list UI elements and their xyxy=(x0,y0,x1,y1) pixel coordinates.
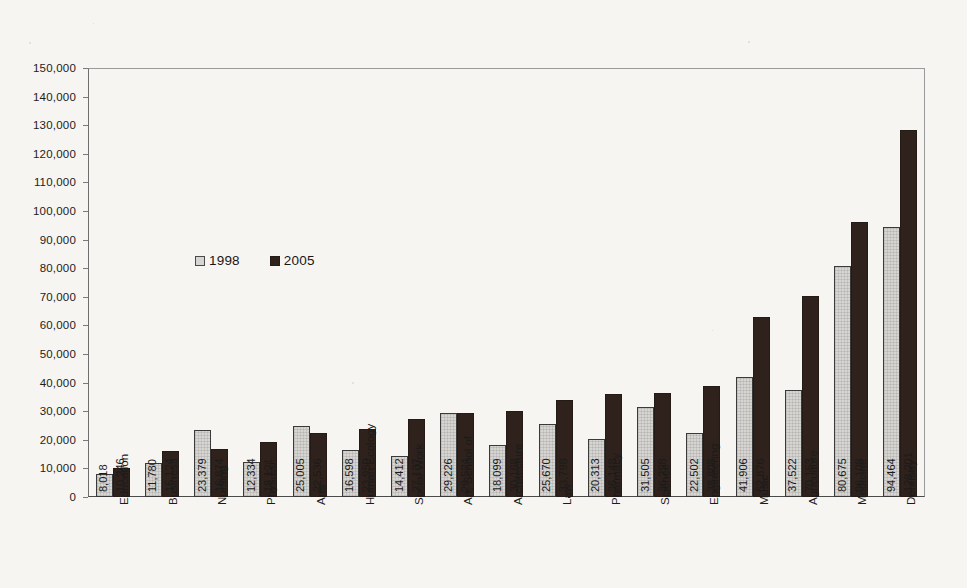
bar-value-label: 37,522 xyxy=(786,458,798,492)
bar-group: 25,67033,798 xyxy=(531,68,580,497)
bar-value-label: 25,005 xyxy=(294,458,306,492)
bar-value-label: 22,502 xyxy=(688,458,700,492)
bar-1998[interactable]: 25,005 xyxy=(293,426,310,498)
x-axis-tick-label: Music xyxy=(758,475,770,505)
y-axis-tick-label: 130,000 xyxy=(0,119,76,131)
bar-1998[interactable]: 16,598 xyxy=(342,450,359,497)
bar-value-label: 14,412 xyxy=(393,458,405,492)
bar-1998[interactable]: 11,780 xyxy=(145,463,162,497)
x-axis-tick-label: Medicine xyxy=(856,459,868,505)
bar-group: 29,22629,524 xyxy=(433,68,482,497)
bar-1998[interactable]: 20,313 xyxy=(588,439,605,497)
bar-group: 20,31336,148 xyxy=(580,68,629,497)
bar-2005[interactable]: 96,108 xyxy=(851,222,868,497)
bar-1998[interactable]: 29,226 xyxy=(440,413,457,497)
bar-group: 12,33419,121 xyxy=(236,68,285,497)
x-axis-tick-label: Human Ecology xyxy=(364,424,376,505)
y-axis-tick-label: 70,000 xyxy=(0,291,76,303)
bar-value-label: 29,226 xyxy=(442,458,454,492)
x-axis-tick-label: Art, School of xyxy=(462,436,474,505)
legend-swatch-icon-2005 xyxy=(270,256,280,266)
x-axis-tick-label: Agriculture xyxy=(807,450,819,505)
x-axis-tick-label: Phys.Ed. xyxy=(265,459,277,505)
scan-artifact xyxy=(29,42,31,44)
x-axis-tick-label: Social Work xyxy=(413,444,425,505)
legend-item-1998: 1998 xyxy=(195,253,240,268)
y-axis-tick-label: 10,000 xyxy=(0,462,76,474)
bar-1998[interactable]: 8,018 xyxy=(96,474,113,497)
scan-artifact xyxy=(352,382,354,384)
bar-chart: 010,00020,00030,00040,00050,00060,00070,… xyxy=(0,0,967,588)
scan-artifact xyxy=(712,330,713,331)
bar-1998[interactable]: 12,334 xyxy=(243,462,260,497)
legend-label-1998: 1998 xyxy=(209,253,240,268)
legend: 1998 2005 xyxy=(195,253,315,268)
bar-2005[interactable]: 62,876 xyxy=(753,317,770,497)
x-axis-tick-label: Science xyxy=(659,464,671,505)
scan-artifact xyxy=(748,41,750,43)
bar-2005[interactable]: 33,798 xyxy=(556,400,573,497)
y-axis: 010,00020,00030,00040,00050,00060,00070,… xyxy=(0,0,88,588)
bar-1998[interactable]: 31,505 xyxy=(637,407,654,497)
bar-1998[interactable]: 94,464 xyxy=(883,227,900,497)
y-axis-tick-label: 120,000 xyxy=(0,148,76,160)
y-axis-tick-label: 50,000 xyxy=(0,348,76,360)
x-axis-tick-label: Law xyxy=(561,484,573,505)
bar-1998[interactable]: 14,412 xyxy=(391,456,408,497)
bar-group: 80,67596,108 xyxy=(827,68,876,497)
bar-group: 41,90662,876 xyxy=(728,68,777,497)
y-axis-tick-mark xyxy=(83,497,88,498)
bar-value-label: 8,018 xyxy=(97,464,109,492)
bar-group: 22,50238,808 xyxy=(679,68,728,497)
bar-group: 18,09930,168 xyxy=(482,68,531,497)
bar-value-label: 25,670 xyxy=(540,458,552,492)
y-axis-tick-label: 100,000 xyxy=(0,205,76,217)
bar-1998[interactable]: 22,502 xyxy=(686,433,703,497)
bar-value-label: 20,313 xyxy=(589,458,601,492)
bar-value-label: 41,906 xyxy=(737,458,749,492)
x-axis-tick-label: Education xyxy=(118,454,130,505)
legend-label-2005: 2005 xyxy=(284,253,315,268)
bar-1998[interactable]: 80,675 xyxy=(834,266,851,497)
bars-layer: 8,01810,24611,78016,12423,37916,87412,33… xyxy=(88,68,925,497)
y-axis-tick-label: 80,000 xyxy=(0,262,76,274)
x-axis-tick-label: Architecture xyxy=(512,444,524,505)
x-axis-tick-label: Business xyxy=(167,458,179,505)
scan-artifact xyxy=(93,23,94,24)
bar-1998[interactable]: 18,099 xyxy=(489,445,506,497)
x-axis-tick-label: Pharmacy xyxy=(610,453,622,505)
bar-group: 14,41227,137 xyxy=(383,68,432,497)
bar-group: 94,464128,201 xyxy=(876,68,925,497)
bar-value-label: 94,464 xyxy=(885,458,897,492)
bar-group: 11,78016,124 xyxy=(137,68,186,497)
y-axis-tick-label: 110,000 xyxy=(0,176,76,188)
legend-swatch-icon-1998 xyxy=(195,256,205,266)
x-axis-tick-label: Dentistry xyxy=(905,460,917,505)
bar-value-label: 31,505 xyxy=(639,458,651,492)
bar-group: 37,52270,153 xyxy=(777,68,826,497)
bar-1998[interactable]: 37,522 xyxy=(785,390,802,497)
bar-1998[interactable]: 25,670 xyxy=(539,424,556,497)
y-axis-tick-label: 150,000 xyxy=(0,62,76,74)
x-axis-tick-label: Arts xyxy=(315,485,327,505)
bar-group: 31,50536,298 xyxy=(630,68,679,497)
y-axis-tick-label: 60,000 xyxy=(0,319,76,331)
bar-value-label: 18,099 xyxy=(491,458,503,492)
y-axis-tick-label: 40,000 xyxy=(0,377,76,389)
bar-value-label: 80,675 xyxy=(836,458,848,492)
bar-value-label: 23,379 xyxy=(196,458,208,492)
bar-2005[interactable]: 128,201 xyxy=(900,130,917,497)
bar-group: 23,37916,874 xyxy=(186,68,235,497)
bar-1998[interactable]: 41,906 xyxy=(736,377,753,497)
y-axis-tick-label: 20,000 xyxy=(0,434,76,446)
legend-item-2005: 2005 xyxy=(270,253,315,268)
y-axis-tick-label: 30,000 xyxy=(0,405,76,417)
bar-value-label: 11,780 xyxy=(146,459,158,492)
bar-group: 8,01810,246 xyxy=(88,68,137,497)
x-axis-tick-label: Engineering xyxy=(708,444,720,505)
bar-value-label: 12,334 xyxy=(245,458,257,492)
x-axis: EducationBusinessNursingPhys.Ed.ArtsHuma… xyxy=(88,503,925,588)
bar-value-label: 16,598 xyxy=(343,458,355,492)
bar-1998[interactable]: 23,379 xyxy=(194,430,211,497)
y-axis-tick-label: 140,000 xyxy=(0,91,76,103)
